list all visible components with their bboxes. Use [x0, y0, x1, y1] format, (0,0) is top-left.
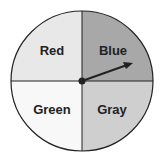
label-red: Red	[40, 43, 65, 58]
label-gray: Gray	[97, 102, 127, 117]
spinner: Red Blue Green Gray	[11, 11, 153, 151]
label-blue: Blue	[99, 43, 127, 58]
spinner-diagram: Red Blue Green Gray	[0, 0, 165, 163]
label-green: Green	[33, 102, 71, 117]
